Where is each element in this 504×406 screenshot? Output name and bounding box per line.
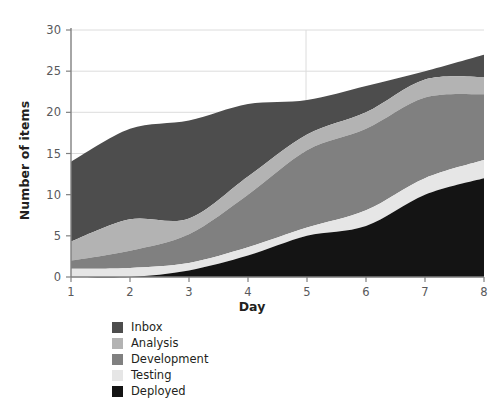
legend-item-label: Inbox xyxy=(131,321,162,334)
legend-item-label: Development xyxy=(131,353,208,366)
x-tick-label-4: 4 xyxy=(244,285,251,299)
y-axis-ticks: 051015202530 xyxy=(46,23,71,284)
y-tick-label-10: 10 xyxy=(46,188,61,202)
legend-item-label: Testing xyxy=(131,369,171,382)
legend-item-label: Analysis xyxy=(131,337,178,350)
legend-swatch-icon-development xyxy=(112,354,123,365)
legend-item-analysis[interactable]: Analysis xyxy=(112,336,208,351)
y-tick-label-0: 0 xyxy=(54,270,61,284)
legend-swatch-icon-inbox xyxy=(112,322,123,333)
y-tick-label-5: 5 xyxy=(54,229,61,243)
x-tick-label-7: 7 xyxy=(421,285,428,299)
y-tick-label-25: 25 xyxy=(46,64,61,78)
legend-swatch-icon-analysis xyxy=(112,338,123,349)
x-tick-label-6: 6 xyxy=(362,285,369,299)
y-tick-label-15: 15 xyxy=(46,147,61,161)
y-tick-label-30: 30 xyxy=(46,23,61,37)
y-tick-label-20: 20 xyxy=(46,105,61,119)
stacked-areas xyxy=(71,55,484,278)
legend-item-label: Deployed xyxy=(131,385,186,398)
legend-swatch-icon-deployed xyxy=(112,386,123,397)
legend-item-development[interactable]: Development xyxy=(112,352,208,367)
x-tick-label-5: 5 xyxy=(303,285,310,299)
legend-swatch-icon-testing xyxy=(112,370,123,381)
x-axis-label: Day xyxy=(0,299,504,314)
legend-item-deployed[interactable]: Deployed xyxy=(112,384,208,399)
x-tick-label-1: 1 xyxy=(67,285,74,299)
x-tick-label-8: 8 xyxy=(480,285,487,299)
chart-legend: InboxAnalysisDevelopmentTestingDeployed xyxy=(112,320,208,399)
cumulative-flow-chart: 051015202530 12345678 Number of items Da… xyxy=(0,0,504,406)
legend-item-inbox[interactable]: Inbox xyxy=(112,320,208,335)
legend-item-testing[interactable]: Testing xyxy=(112,368,208,383)
x-tick-label-3: 3 xyxy=(185,285,192,299)
x-tick-label-2: 2 xyxy=(126,285,133,299)
chart-plot-area: 051015202530 12345678 xyxy=(0,0,504,406)
y-axis-label: Number of items xyxy=(17,91,32,231)
x-axis-ticks: 12345678 xyxy=(67,277,487,299)
